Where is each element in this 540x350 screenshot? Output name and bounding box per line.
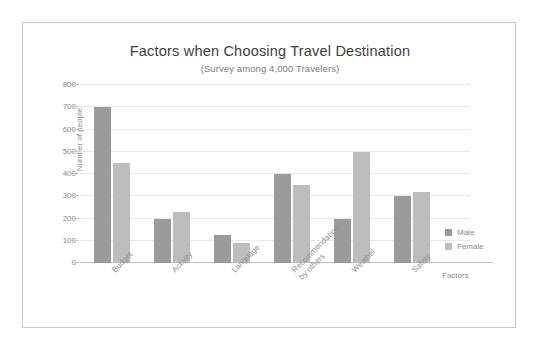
bar[interactable] bbox=[214, 235, 231, 263]
y-tick-mark-600 bbox=[73, 129, 79, 130]
legend-swatch-icon bbox=[445, 229, 452, 236]
x-axis-title: Factors bbox=[442, 271, 469, 280]
bar[interactable] bbox=[394, 196, 411, 263]
y-tick-label-200: 200 bbox=[36, 215, 76, 223]
y-tick-label-300: 300 bbox=[36, 192, 76, 200]
y-tick-label-700: 700 bbox=[36, 103, 76, 111]
gridline-600 bbox=[80, 129, 470, 130]
bar[interactable] bbox=[274, 174, 291, 263]
y-tick-mark-400 bbox=[73, 173, 79, 174]
y-tick-mark-0 bbox=[73, 262, 79, 263]
y-tick-label-800: 800 bbox=[36, 81, 76, 89]
gridline-500 bbox=[80, 151, 470, 152]
legend-item[interactable]: Female bbox=[445, 242, 484, 251]
bar[interactable] bbox=[94, 107, 111, 263]
chart-subtitle: (Survey among 4,000 Travelers) bbox=[23, 63, 517, 74]
bar[interactable] bbox=[353, 152, 370, 263]
legend-item[interactable]: Male bbox=[445, 228, 484, 237]
legend-label: Female bbox=[457, 242, 484, 251]
y-tick-label-0: 0 bbox=[36, 259, 76, 267]
y-tick-mark-700 bbox=[73, 106, 79, 107]
chart-frame: Factors when Choosing Travel Destination… bbox=[22, 22, 516, 328]
legend: MaleFemale bbox=[445, 228, 484, 256]
y-tick-label-100: 100 bbox=[36, 237, 76, 245]
y-tick-mark-200 bbox=[73, 218, 79, 219]
bar[interactable] bbox=[413, 192, 430, 263]
bar[interactable] bbox=[113, 163, 130, 263]
plot-area: Number of people 80070060050040030020010… bbox=[80, 85, 470, 263]
y-tick-mark-300 bbox=[73, 195, 79, 196]
chart-title: Factors when Choosing Travel Destination bbox=[23, 43, 517, 59]
legend-label: Male bbox=[457, 228, 474, 237]
y-tick-mark-500 bbox=[73, 151, 79, 152]
y-tick-label-600: 600 bbox=[36, 126, 76, 134]
legend-swatch-icon bbox=[445, 243, 452, 250]
y-tick-label-400: 400 bbox=[36, 170, 76, 178]
y-tick-label-500: 500 bbox=[36, 148, 76, 156]
bar[interactable] bbox=[154, 219, 171, 264]
y-tick-mark-800 bbox=[73, 84, 79, 85]
gridline-800 bbox=[80, 84, 470, 85]
gridline-700 bbox=[80, 106, 470, 107]
y-tick-mark-100 bbox=[73, 240, 79, 241]
